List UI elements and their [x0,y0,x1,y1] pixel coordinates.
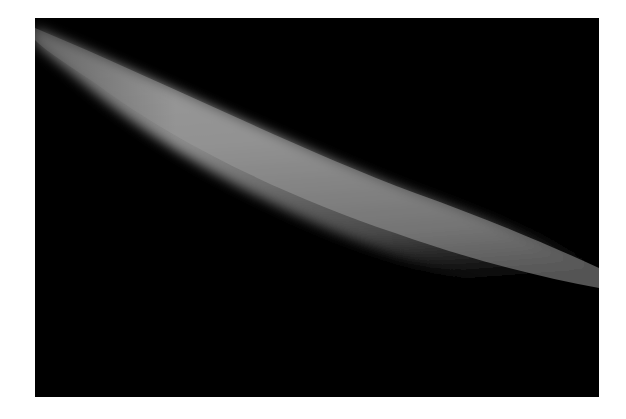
photo-frame [35,18,599,397]
crescent-graphic [35,18,599,397]
